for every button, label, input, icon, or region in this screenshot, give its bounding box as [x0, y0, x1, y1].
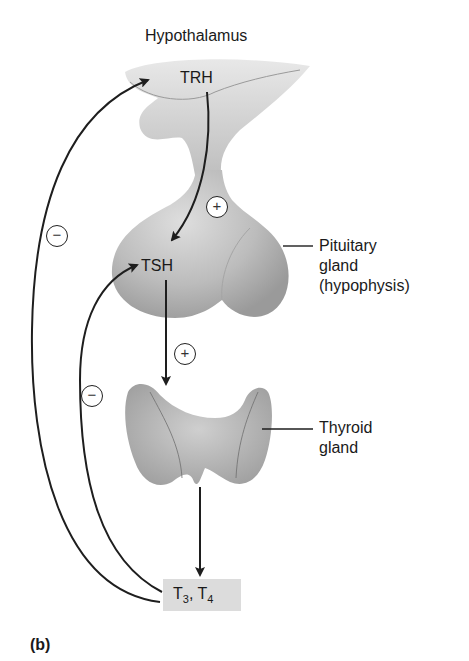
t4-subscript: 4	[207, 593, 213, 605]
hypothalamus-label: Hypothalamus	[145, 26, 247, 45]
pituitary-label-line1: Pituitary	[319, 236, 377, 255]
thyroid-gland-shape	[125, 384, 272, 485]
plus-sign-icon: +	[206, 196, 228, 218]
minus-sign-icon: −	[81, 385, 103, 407]
t3-letter: T	[173, 585, 183, 602]
pituitary-label-line2: gland	[319, 256, 358, 275]
t3-t4-box: T3, T4	[163, 579, 241, 611]
plus-sign-icon: +	[174, 343, 196, 365]
hypothalamus-shape	[125, 59, 310, 180]
arrows	[32, 80, 209, 602]
t34-to-trh-feedback-arrow	[32, 80, 160, 602]
panel-label: (b)	[30, 636, 50, 654]
trh-label: TRH	[180, 69, 213, 87]
t4-letter: T	[198, 585, 208, 602]
tsh-label: TSH	[141, 257, 173, 275]
thyroid-label-line2: gland	[319, 438, 358, 457]
minus-sign-icon: −	[46, 225, 68, 247]
t-separator: ,	[189, 585, 198, 602]
thyroid-label-line1: Thyroid	[319, 418, 372, 437]
pituitary-gland-shape	[112, 170, 289, 318]
pituitary-label-line3: (hypophysis)	[319, 276, 410, 295]
diagram-canvas	[0, 0, 469, 661]
